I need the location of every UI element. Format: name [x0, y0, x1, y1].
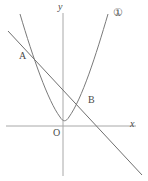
point-a-label: A: [19, 51, 26, 61]
point-b-label: B: [88, 95, 95, 105]
curve-one-label: ①: [113, 7, 123, 18]
x-axis-label: x: [130, 119, 134, 129]
y-axis-label: y: [58, 2, 62, 12]
origin-label: O: [53, 128, 60, 138]
secant-line: [8, 31, 142, 175]
coordinate-geometry-figure: y x O A B ①: [0, 0, 148, 181]
figure-canvas: [0, 0, 148, 181]
